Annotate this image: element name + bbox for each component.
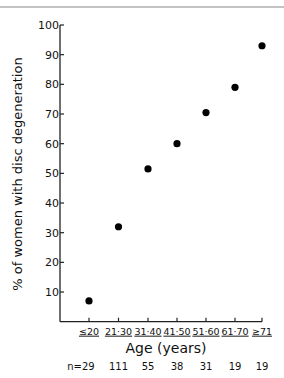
data-point [85,297,92,304]
data-point [258,42,265,49]
x-tick-label: 61·70 [221,326,248,337]
y-tick-label: 100 [38,19,59,32]
x-tick-label: 41·50 [163,326,190,337]
sample-size-label: 38 [171,361,184,372]
y-axis: 102030405060708090100 [38,19,64,322]
y-tick-label: 50 [45,167,59,180]
data-point [115,223,122,230]
sample-size-label: n=29 [67,361,94,372]
data-point [231,84,238,91]
data-point [144,165,151,172]
sample-size-label: 19 [229,361,242,372]
x-tick-label: ≥71 [252,326,272,337]
y-tick-label: 60 [45,138,59,151]
sample-size-label: 31 [200,361,213,372]
sample-size-label: 111 [109,361,128,372]
y-tick-label: 10 [45,286,59,299]
data-point [202,109,209,116]
y-tick-label: 80 [45,78,59,91]
sample-size-label: 19 [256,361,269,372]
x-tick-label: 21·30 [105,326,132,337]
y-axis-title: % of women with disc degeneration [10,57,25,290]
y-tick-label: 30 [45,227,59,240]
scatter-chart: 102030405060708090100 ≤20n=2921·3011131·… [0,0,284,378]
data-points [85,42,265,304]
y-tick-label: 20 [45,256,59,269]
x-tick-label: 51·60 [192,326,219,337]
sample-size-label: 55 [142,361,155,372]
y-tick-label: 40 [45,197,59,210]
x-tick-label: 31·40 [134,326,161,337]
y-tick-label: 70 [45,108,59,121]
y-tick-label: 90 [45,49,59,62]
x-tick-label: ≤20 [79,326,99,337]
data-point [173,140,180,147]
x-axis-title: Age (years) [126,340,207,356]
